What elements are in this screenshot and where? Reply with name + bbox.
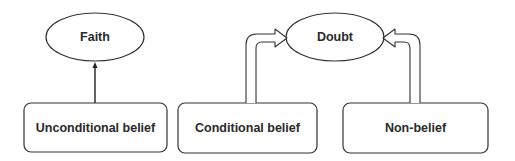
nonbelief-label: Non-belief bbox=[343, 118, 488, 138]
arrow-unconditional-to-faith bbox=[93, 62, 98, 103]
conditional-label: Conditional belief bbox=[178, 118, 317, 138]
unconditional-label: Unconditional belief bbox=[24, 118, 167, 138]
doubt-label: Doubt bbox=[286, 27, 384, 47]
faith-label: Faith bbox=[46, 27, 144, 47]
arrow-nonbelief-to-doubt bbox=[383, 29, 420, 103]
arrow-conditional-to-doubt bbox=[246, 29, 287, 103]
